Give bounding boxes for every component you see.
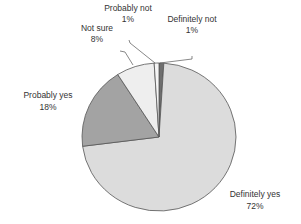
label-probably-yes-name: Probably yes bbox=[23, 90, 72, 100]
label-not-sure-pct: 8% bbox=[91, 34, 104, 44]
label-definitely-yes-name: Definitely yes bbox=[230, 189, 281, 199]
label-not-sure-name: Not sure bbox=[81, 23, 113, 33]
label-definitely-not-pct: 1% bbox=[186, 25, 199, 35]
pie-chart: Probably not 1% Definitely not 1% Not su… bbox=[0, 0, 301, 224]
label-probably-not-pct: 1% bbox=[122, 14, 135, 24]
label-probably-not-name: Probably not bbox=[104, 3, 152, 13]
label-probably-yes-pct: 18% bbox=[39, 102, 56, 112]
leader-line-probably-not bbox=[129, 40, 155, 63]
leader-lines bbox=[120, 40, 192, 65]
leader-line-definitely-not bbox=[160, 56, 192, 63]
leader-line-not-sure bbox=[120, 51, 133, 65]
pie-slices bbox=[82, 63, 236, 211]
label-definitely-not-name: Definitely not bbox=[167, 14, 217, 24]
label-definitely-yes-pct: 72% bbox=[246, 201, 263, 211]
